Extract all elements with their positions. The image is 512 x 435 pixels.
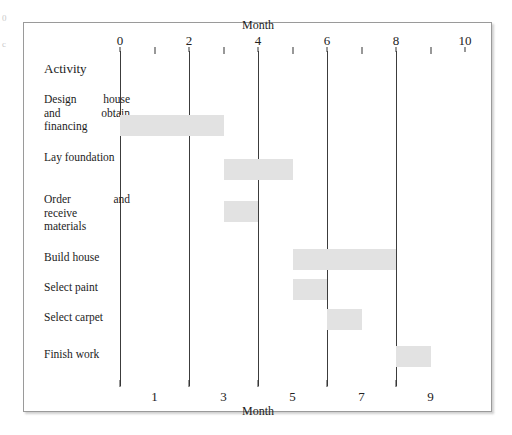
gridline-month-4 (258, 51, 259, 386)
activity-label-line: financing (44, 120, 130, 134)
activity-label-line: Lay foundation (44, 151, 130, 165)
activity-label-2: Lay foundation (44, 151, 130, 165)
bottom-axis-label-1: 1 (151, 389, 158, 405)
gantt-bar-4 (293, 249, 397, 270)
gantt-bar-2 (224, 159, 293, 180)
activity-label-line: receive (44, 207, 130, 221)
gridline-month-2 (189, 51, 190, 386)
top-axis-minor-tick (361, 47, 362, 54)
top-axis-title: Month (242, 18, 274, 33)
activity-label-4: Build house (44, 251, 130, 265)
activity-label-line: materials (44, 220, 130, 234)
bottom-axis-tick (120, 380, 121, 387)
gantt-bar-7 (396, 346, 431, 367)
activity-label-line: Finish work (44, 348, 130, 362)
gantt-plot-area: Month 0246810 Activity Design houseand o… (24, 23, 493, 413)
bottom-axis-label-9: 9 (427, 389, 434, 405)
bottom-axis-tick (189, 380, 190, 387)
margin-artifact: c (2, 40, 6, 49)
margin-artifact: 0 (2, 14, 7, 23)
gantt-bar-3 (224, 201, 259, 222)
activity-label-6: Select carpet (44, 311, 130, 325)
activity-label-line: Order and (44, 193, 130, 207)
activity-label-5: Select paint (44, 281, 130, 295)
activity-label-line: Select carpet (44, 311, 130, 325)
top-axis-minor-tick (154, 47, 155, 54)
bottom-axis-title: Month (242, 404, 274, 419)
bottom-axis-label-5: 5 (289, 389, 296, 405)
activity-label-line: Select paint (44, 281, 130, 295)
activity-label-3: Order andreceivematerials (44, 193, 130, 234)
bottom-axis-tick (258, 380, 259, 387)
gantt-bar-6 (327, 309, 362, 330)
gantt-bar-5 (293, 279, 328, 300)
top-axis-minor-tick (292, 47, 293, 54)
gantt-bar-1 (120, 115, 224, 136)
bottom-axis-tick (327, 380, 328, 387)
top-axis-minor-tick (223, 47, 224, 54)
gridline-month-8 (396, 51, 397, 386)
top-axis-major-tick (465, 47, 466, 52)
activity-label-7: Finish work (44, 348, 130, 362)
activity-label-1: Design houseand obtainfinancing (44, 93, 130, 134)
bottom-axis-label-3: 3 (220, 389, 227, 405)
activity-label-line: Build house (44, 251, 130, 265)
gantt-chart-figure: Month 0246810 Activity Design houseand o… (23, 22, 492, 412)
activity-column-header: Activity (44, 61, 87, 77)
activity-label-line: and obtain (44, 107, 130, 121)
top-axis-minor-tick (430, 47, 431, 54)
activity-label-line: Design house (44, 93, 130, 107)
gridline-month-6 (327, 51, 328, 386)
bottom-axis-tick (396, 380, 397, 387)
bottom-axis-label-7: 7 (358, 389, 365, 405)
